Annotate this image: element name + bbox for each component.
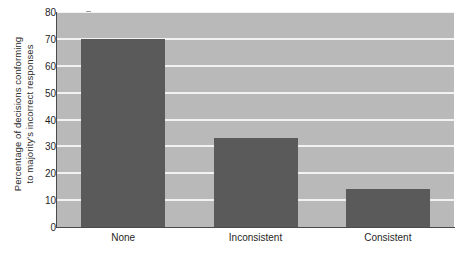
bar-none: [81, 39, 165, 227]
y-axis-title: Percentage of decisions conforming to ma…: [12, 14, 36, 214]
y-tick-label: 70: [45, 33, 56, 44]
plot-area: [57, 12, 454, 227]
y-tick-label: 60: [45, 60, 56, 71]
x-tick-label: Inconsistent: [229, 232, 282, 243]
y-axis-title-line-1: Percentage of decisions conforming: [12, 14, 24, 214]
bar-consistent: [346, 189, 430, 227]
x-axis-labels: NoneInconsistentConsistent: [57, 232, 454, 252]
y-tick-label: 40: [45, 114, 56, 125]
y-tick-label: 20: [45, 168, 56, 179]
bar-chart: Percentage of decisions conforming to ma…: [0, 0, 459, 256]
y-tick-label: 30: [45, 141, 56, 152]
gridline: [57, 12, 454, 13]
x-tick-label: None: [111, 232, 135, 243]
y-tick-label: 80: [45, 7, 56, 18]
y-axis-ticks: 01020304050607080: [34, 0, 56, 256]
x-axis-line: [57, 227, 455, 228]
bar-inconsistent: [214, 138, 298, 227]
y-tick-label: 50: [45, 87, 56, 98]
x-tick-label: Consistent: [364, 232, 411, 243]
y-tick-label: 10: [45, 195, 56, 206]
